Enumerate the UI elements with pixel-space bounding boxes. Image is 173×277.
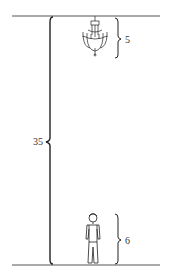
chandelier-icon — [83, 16, 107, 56]
chandelier-height-label: 5 — [125, 35, 130, 45]
total-height-brace — [46, 17, 53, 264]
person-height-brace — [115, 214, 121, 264]
total-height-label: 35 — [33, 137, 43, 147]
diagram-canvas — [0, 0, 173, 277]
person-height-label: 6 — [125, 236, 130, 246]
chandelier-height-brace — [115, 18, 121, 58]
person-icon — [86, 214, 100, 264]
